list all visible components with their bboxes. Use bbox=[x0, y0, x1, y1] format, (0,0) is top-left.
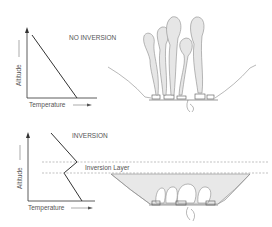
inversion-diagram: Altitude Temperature NO INVERSION bbox=[0, 0, 272, 227]
smoke-plumes bbox=[144, 17, 204, 95]
panel-title: INVERSION bbox=[72, 132, 108, 139]
y-axis-label: Altitude bbox=[15, 64, 22, 86]
y-axis-label: Altitude bbox=[16, 167, 23, 189]
valley-illustration-no-inversion bbox=[108, 17, 256, 112]
arrow-right-icon bbox=[87, 104, 92, 107]
no-inversion-graph: Altitude Temperature NO INVERSION bbox=[15, 27, 117, 109]
valley-illustration-inversion bbox=[111, 174, 250, 221]
arrow-up-icon bbox=[26, 132, 30, 138]
inversion-layer-label: Inversion Layer bbox=[85, 164, 130, 172]
arrow-right-icon bbox=[88, 207, 93, 210]
panel-title: NO INVERSION bbox=[69, 34, 117, 41]
x-axis-label: Temperature bbox=[29, 101, 66, 109]
arrow-up-icon bbox=[25, 27, 29, 33]
x-axis-label: Temperature bbox=[28, 204, 65, 212]
inversion-graph: Inversion Layer Altitude Temperature INV… bbox=[16, 132, 268, 212]
